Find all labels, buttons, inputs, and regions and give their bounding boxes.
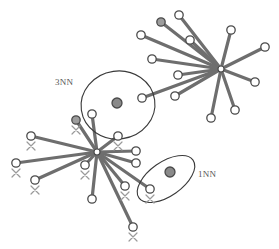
cross-marker [114,142,122,150]
group-boundary-group-1nn [129,146,203,212]
label-3nn: 3NN [55,77,73,87]
cross-marker [121,192,129,200]
node-point [148,55,156,63]
node-point [114,132,122,140]
node-point [171,92,179,100]
edge-spoke [97,151,136,152]
cross-marker [81,171,89,179]
node-point [31,176,39,184]
nodes-layer [12,11,269,231]
node-point [175,11,183,19]
node-point [129,223,137,231]
cross-marker [27,142,35,150]
edge-spoke [211,69,221,118]
group-centroid-group-3nn [112,98,122,108]
edges-layer [16,15,265,227]
label-1nn: 1NN [198,169,216,179]
node-point [146,185,154,193]
hubs-layer [94,66,224,177]
node-point [27,132,35,140]
node-point [157,18,165,26]
cross-marker [129,233,137,241]
node-point [251,78,259,86]
node-point [132,159,140,167]
node-point [81,161,89,169]
node-point [207,114,215,122]
edge-spoke [221,47,265,69]
cross-marker [72,126,80,134]
node-point [186,36,194,44]
node-point [88,110,96,118]
node-point [227,26,235,34]
group-centroid-group-1nn [165,167,175,177]
edge-spoke [92,152,97,199]
node-point [132,147,140,155]
node-point [231,106,239,114]
diagram-svg [0,0,279,249]
node-point [138,94,146,102]
cross-marker [31,186,39,194]
node-point [174,71,182,79]
node-point [72,116,80,124]
node-point [121,182,129,190]
cross-marker [12,169,20,177]
cross-marker [146,195,154,203]
node-point [88,195,96,203]
diagram-canvas: 3NN1NN [0,0,279,249]
node-point [137,31,145,39]
node-point [12,159,20,167]
node-point [261,43,269,51]
hub-star-lower-left [94,149,100,155]
hub-star-upper-right [218,66,224,72]
